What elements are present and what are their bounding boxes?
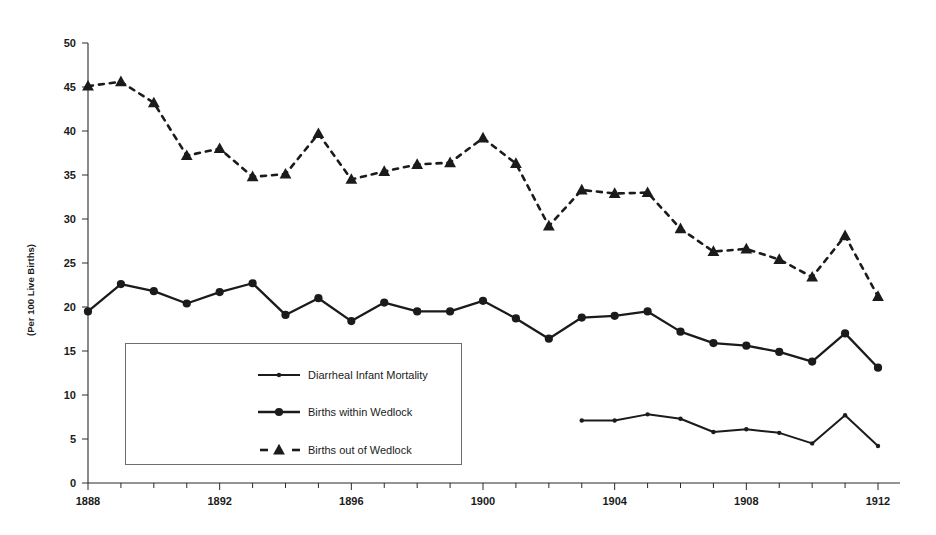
data-point xyxy=(806,271,818,282)
y-tick-label: 25 xyxy=(64,257,76,269)
legend-label: Diarrheal Infant Mortality xyxy=(308,369,428,381)
data-point xyxy=(576,184,588,195)
data-point xyxy=(446,307,454,315)
data-point xyxy=(380,299,388,307)
legend-item-births-out-of-wedlock[interactable]: Births out of Wedlock xyxy=(260,444,412,456)
y-tick-label: 0 xyxy=(70,477,76,489)
data-point xyxy=(643,307,651,315)
legend-item-births-within-wedlock[interactable]: Births within Wedlock xyxy=(258,406,413,418)
x-tick-label: 1904 xyxy=(602,495,627,507)
y-tick-group xyxy=(82,43,88,483)
data-point xyxy=(150,287,158,295)
y-tick-label: 50 xyxy=(64,37,76,49)
data-point xyxy=(645,412,649,416)
data-point xyxy=(841,329,849,337)
data-point xyxy=(413,307,421,315)
y-tick-label: 45 xyxy=(64,81,76,93)
data-point xyxy=(84,307,92,315)
chart-container: 05101520253035404550 1888189218961900190… xyxy=(0,0,936,535)
data-point xyxy=(839,230,851,241)
y-tick-label-group: 05101520253035404550 xyxy=(64,37,76,489)
data-point xyxy=(214,142,226,153)
y-tick-label: 40 xyxy=(64,125,76,137)
legend-item-group: Diarrheal Infant MortalityBirths within … xyxy=(258,369,428,456)
data-point xyxy=(444,156,456,167)
data-point xyxy=(248,279,256,287)
data-point xyxy=(543,220,555,231)
series-line xyxy=(88,283,878,367)
legend-marker xyxy=(275,408,283,416)
y-tick-label: 10 xyxy=(64,389,76,401)
x-tick-label: 1892 xyxy=(207,495,231,507)
data-point xyxy=(281,311,289,319)
data-point xyxy=(313,127,325,138)
data-point xyxy=(742,342,750,350)
data-point xyxy=(709,339,717,347)
y-tick-label: 15 xyxy=(64,345,76,357)
x-tick-label-group: 1888189218961900190419081912 xyxy=(76,495,890,507)
series-births-within-wedlock xyxy=(84,279,882,372)
data-point xyxy=(477,132,489,143)
data-point xyxy=(711,430,715,434)
y-tick-label: 20 xyxy=(64,301,76,313)
data-point xyxy=(115,76,127,87)
data-point xyxy=(512,314,520,322)
y-tick-label: 5 xyxy=(70,433,76,445)
x-tick-label: 1896 xyxy=(339,495,363,507)
data-point xyxy=(117,280,125,288)
x-tick-label: 1900 xyxy=(471,495,495,507)
legend-item-diarrheal-infant-mortality[interactable]: Diarrheal Infant Mortality xyxy=(258,369,428,381)
data-point xyxy=(247,171,259,182)
data-point xyxy=(611,312,619,320)
data-point xyxy=(874,364,882,372)
x-tick-label: 1908 xyxy=(734,495,758,507)
data-point xyxy=(181,149,193,160)
data-point xyxy=(578,313,586,321)
legend-marker xyxy=(277,373,281,377)
data-point xyxy=(479,297,487,305)
data-point xyxy=(808,357,816,365)
data-point xyxy=(872,290,884,301)
data-point xyxy=(843,413,847,417)
data-point xyxy=(810,441,814,445)
series-diarrheal-infant-mortality xyxy=(580,412,881,448)
data-point xyxy=(876,444,880,448)
x-tick-label: 1912 xyxy=(866,495,890,507)
y-tick-label: 35 xyxy=(64,169,76,181)
legend-marker xyxy=(273,444,285,455)
series-births-out-of-wedlock xyxy=(82,76,884,301)
y-axis-title: (Per 100 Live Births) xyxy=(25,244,36,336)
series-layer xyxy=(82,76,884,449)
data-point xyxy=(216,288,224,296)
data-point xyxy=(411,158,423,169)
data-point xyxy=(676,328,684,336)
data-point xyxy=(183,299,191,307)
data-point xyxy=(280,168,292,179)
legend-label: Births within Wedlock xyxy=(308,406,413,418)
line-chart: 05101520253035404550 1888189218961900190… xyxy=(0,0,936,535)
data-point xyxy=(347,317,355,325)
data-point xyxy=(580,418,584,422)
series-line xyxy=(88,82,878,297)
data-point xyxy=(678,417,682,421)
x-tick-group xyxy=(88,483,878,490)
data-point xyxy=(744,427,748,431)
legend-label: Births out of Wedlock xyxy=(308,444,412,456)
series-line xyxy=(582,414,878,446)
x-tick-label: 1888 xyxy=(76,495,100,507)
y-tick-label: 30 xyxy=(64,213,76,225)
data-point xyxy=(148,97,160,108)
data-point xyxy=(545,335,553,343)
data-point xyxy=(775,348,783,356)
legend: Diarrheal Infant MortalityBirths within … xyxy=(126,344,462,465)
data-point xyxy=(612,418,616,422)
data-point xyxy=(314,294,322,302)
data-point xyxy=(777,431,781,435)
